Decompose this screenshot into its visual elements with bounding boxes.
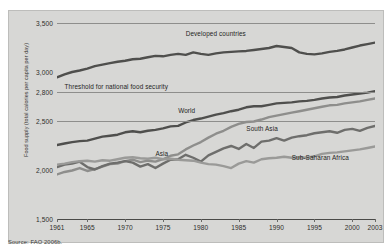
x-axis-tick-label: 1985 [231,224,246,231]
series-line [57,43,375,78]
y-axis-tick-label: 3,000 [36,69,53,76]
y-axis-tick-label: 2,000 [36,167,53,174]
x-axis-tick-label: 1970 [118,224,133,231]
y-axis-tick-label: 2,500 [36,118,53,125]
source-note: Source: FAO 2006b. [8,239,62,245]
x-axis-tick-mark [125,219,126,222]
series-label: South Asia [246,125,278,132]
x-axis-tick-mark [277,219,278,222]
x-axis-tick-mark [375,219,376,222]
y-axis-tick-label: 2,800 [36,88,53,95]
x-axis-tick-mark [57,219,58,222]
y-axis-tick-label: 3,500 [36,20,53,27]
x-axis-tick-label: 2003 [367,224,382,231]
series-label: Developed countries [186,30,246,37]
threshold-annotation: Threshold for national food security [65,83,168,90]
chart-figure: Food supply (total calories per capita p… [8,10,384,243]
x-axis-tick-label: 1975 [155,224,170,231]
series-line [57,126,375,170]
gridline [57,121,375,122]
x-axis-tick-label: 1980 [193,224,208,231]
x-axis-tick-mark [87,219,88,222]
x-axis-tick-label: 1961 [49,224,64,231]
y-axis-label: Food supply (total calories per capita p… [23,47,29,157]
x-axis-line [57,219,375,220]
series-line [57,91,375,145]
x-axis-tick-mark [352,219,353,222]
x-axis-tick-mark [201,219,202,222]
x-axis-tick-mark [239,219,240,222]
x-axis-tick-label: 1965 [80,224,95,231]
plot-area: 1,5002,0002,5002,8003,0003,5001961196519… [57,23,375,219]
x-axis-tick-mark [314,219,315,222]
series-label: Asia [155,150,168,157]
gridline [57,23,375,24]
series-label: Sub-Saharan Africa [292,154,349,161]
x-axis-tick-label: 1995 [307,224,322,231]
series-label: World [178,107,195,114]
x-axis-tick-label: 1990 [269,224,284,231]
gridline [57,92,375,93]
x-axis-tick-mark [163,219,164,222]
figure-page: Food supply (total calories per capita p… [0,0,392,251]
y-axis-tick-label: 1,500 [36,216,53,223]
x-axis-tick-label: 2000 [345,224,360,231]
